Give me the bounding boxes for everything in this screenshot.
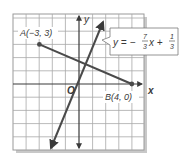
y-axis-label: y xyxy=(83,14,90,25)
slope-denominator: 3 xyxy=(143,43,147,50)
point-a xyxy=(37,42,42,47)
origin-label: O xyxy=(67,85,75,96)
equation-var: x + xyxy=(148,37,163,48)
point-b xyxy=(129,82,134,87)
intercept-numerator: 1 xyxy=(170,33,174,40)
point-a-label: A(−3, 3) xyxy=(19,28,52,38)
equation-callout: y = − 7 3 x + 1 3 xyxy=(102,28,178,55)
x-axis-label: x xyxy=(147,85,154,96)
coordinate-plane: y x O A(−3, 3) B(4, 0) y = − 7 3 x + 1 3 xyxy=(0,0,182,163)
point-b-label: B(4, 0) xyxy=(105,92,132,102)
intercept-denominator: 3 xyxy=(170,43,174,50)
equation-prefix: y = − xyxy=(112,37,135,48)
